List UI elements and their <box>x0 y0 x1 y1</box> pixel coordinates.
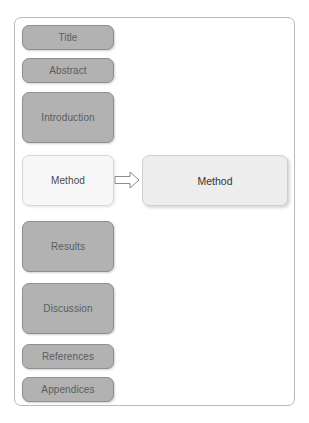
arrow-right-outline-icon <box>114 170 140 190</box>
section-box-abstract[interactable]: Abstract <box>22 58 114 83</box>
diagram-canvas: Title Abstract Introduction Method Resul… <box>0 0 309 423</box>
section-label: Results <box>51 241 85 252</box>
section-box-references[interactable]: References <box>22 344 114 369</box>
section-box-results[interactable]: Results <box>22 221 114 272</box>
section-label: Discussion <box>43 303 92 314</box>
section-label: References <box>42 351 94 362</box>
section-label: Appendices <box>41 384 94 395</box>
section-label: Title <box>58 32 77 43</box>
section-box-introduction[interactable]: Introduction <box>22 92 114 143</box>
detail-panel-method[interactable]: Method <box>142 155 288 206</box>
section-label: Abstract <box>49 65 86 76</box>
section-box-title[interactable]: Title <box>22 25 114 50</box>
section-label: Method <box>51 175 85 186</box>
section-label: Introduction <box>41 112 94 123</box>
section-box-appendices[interactable]: Appendices <box>22 377 114 402</box>
section-box-method[interactable]: Method <box>22 155 114 206</box>
detail-panel-label: Method <box>197 175 232 187</box>
section-box-discussion[interactable]: Discussion <box>22 283 114 334</box>
